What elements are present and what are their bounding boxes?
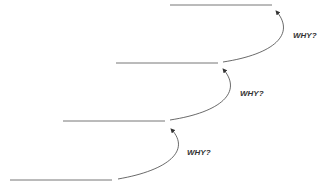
arrow-3 — [223, 12, 283, 62]
arrow-1 — [118, 130, 178, 179]
why-label-3: WHY? — [293, 31, 317, 40]
why-label-1: WHY? — [187, 148, 211, 157]
arrow-2 — [170, 70, 230, 120]
why-staircase-diagram — [0, 0, 319, 185]
why-label-2: WHY? — [240, 89, 264, 98]
